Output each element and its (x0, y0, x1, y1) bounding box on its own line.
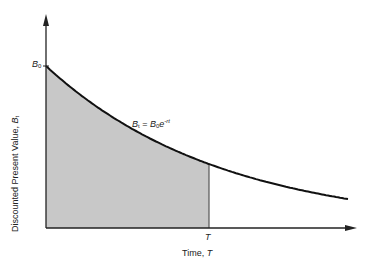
x-axis-label: Time, T (182, 248, 212, 258)
shaded-area (46, 66, 209, 228)
curve-equation-label: Bt = B0e-rt (132, 118, 170, 129)
y-axis-label: Discounted Present Value, Bt (10, 116, 20, 232)
y-axis-arrow-icon (43, 14, 49, 26)
chart-canvas (0, 0, 371, 270)
x-axis-arrow-icon (345, 225, 357, 231)
b0-label: B0 (32, 59, 41, 69)
t-tick-label: T (205, 232, 211, 242)
